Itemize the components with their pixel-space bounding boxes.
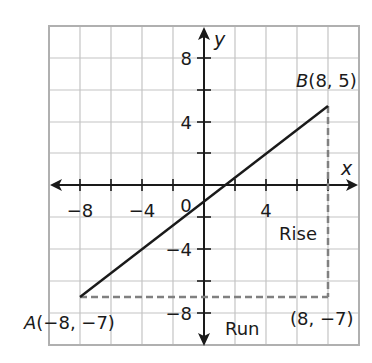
tick-label-x-neg8: −8 [67, 200, 94, 221]
corner-point-label: (8, −7) [290, 308, 353, 329]
x-axis-label: x [340, 157, 353, 179]
tick-label-y-4: 4 [181, 112, 192, 133]
rise-label: Rise [279, 223, 317, 244]
point-a-letter: A [23, 312, 36, 333]
tick-label-y-8: 8 [181, 48, 192, 69]
tick-label-x-4: 4 [260, 200, 271, 221]
point-b-coords: (8, 5) [308, 70, 356, 91]
point-b-label: B(8, 5) [296, 70, 357, 91]
coordinate-plane: y x −8 −4 0 4 8 4 −4 −8 B(8, 5) A(−8, −7… [0, 0, 372, 363]
origin-label: 0 [180, 195, 191, 216]
tick-label-x-neg4: −4 [129, 200, 156, 221]
run-label: Run [225, 318, 260, 339]
point-b-letter: B [296, 70, 308, 91]
y-axis-label: y [213, 28, 226, 50]
tick-label-y-neg8: −8 [165, 303, 192, 324]
point-a-label: A(−8, −7) [23, 312, 115, 333]
tick-label-y-neg4: −4 [165, 239, 192, 260]
point-a-coords: (−8, −7) [36, 312, 115, 333]
